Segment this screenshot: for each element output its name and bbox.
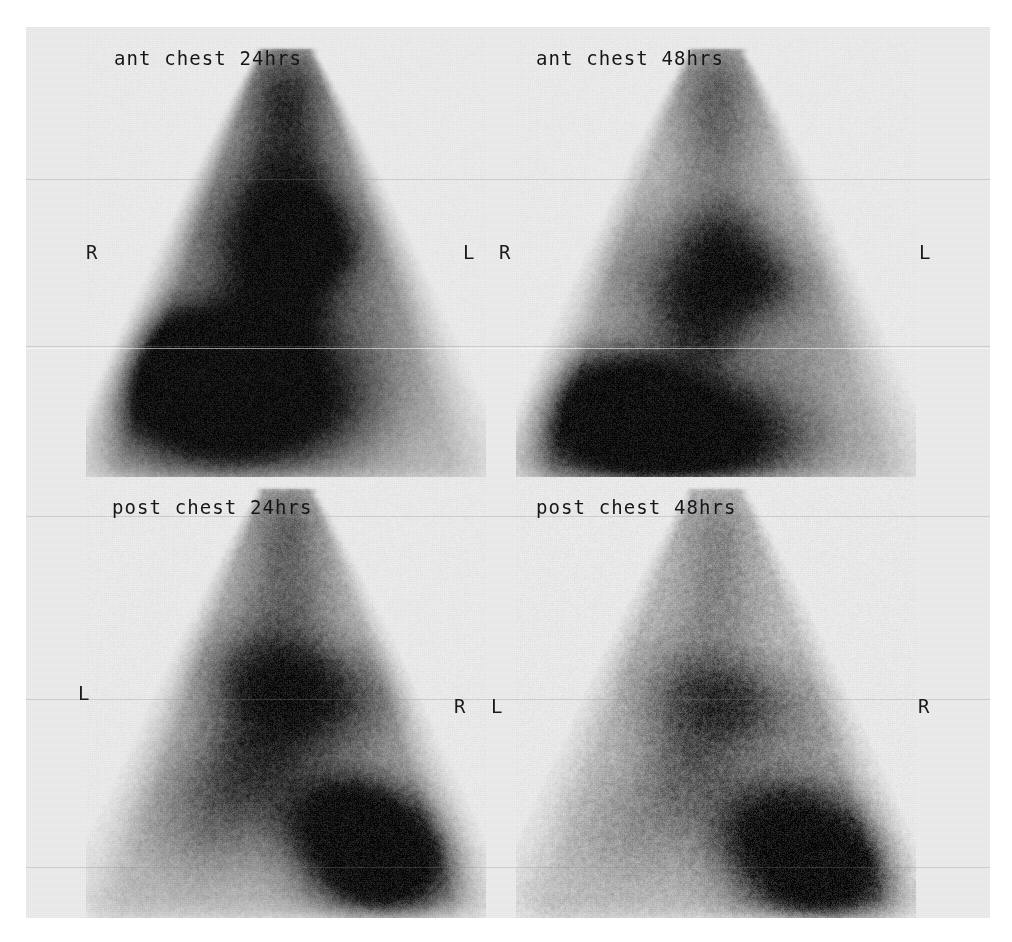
panel-label-ant-chest-48hrs: ant chest 48hrs [536, 47, 724, 69]
panel-post-chest-48hrs[interactable]: post chest 48hrs [516, 477, 916, 918]
film-sheet: ant chest 24hrs ant chest 48hrs post che… [26, 27, 990, 918]
orientation-marker-top-far-right: L [919, 241, 930, 263]
panel-ant-chest-24hrs[interactable]: ant chest 24hrs [86, 37, 486, 487]
orientation-marker-top-far-left: R [86, 241, 97, 263]
scan-image-post-chest-48hrs [516, 477, 916, 918]
scintigraphy-contact-sheet: ant chest 24hrs ant chest 48hrs post che… [0, 0, 1012, 942]
orientation-marker-bottom-far-right: R [918, 695, 929, 717]
panel-ant-chest-48hrs[interactable]: ant chest 48hrs [516, 37, 916, 487]
orientation-marker-bottom-center-left: R [454, 695, 465, 717]
panel-label-ant-chest-24hrs: ant chest 24hrs [114, 47, 302, 69]
orientation-marker-top-center-left: L [463, 241, 474, 263]
scan-image-ant-chest-48hrs [516, 37, 916, 487]
panel-label-post-chest-48hrs: post chest 48hrs [536, 496, 737, 518]
scan-image-ant-chest-24hrs [86, 37, 486, 487]
orientation-marker-bottom-far-left: L [78, 682, 89, 704]
panel-label-post-chest-24hrs: post chest 24hrs [112, 496, 313, 518]
orientation-marker-top-center-right: R [499, 241, 510, 263]
scan-image-post-chest-24hrs [86, 477, 486, 918]
panel-post-chest-24hrs[interactable]: post chest 24hrs [86, 477, 486, 918]
orientation-marker-bottom-center-right: L [491, 695, 502, 717]
